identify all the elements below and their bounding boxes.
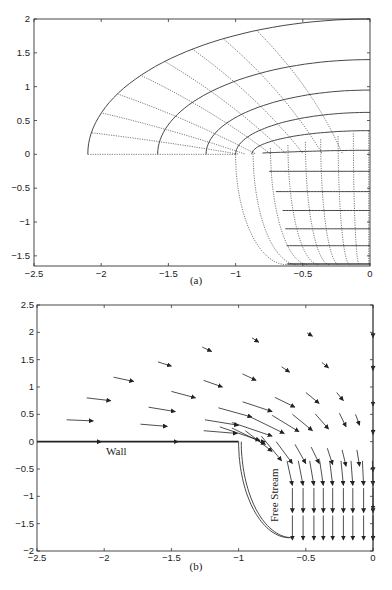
velocity-arrow — [339, 413, 346, 427]
x-tick-label: −2.5 — [25, 268, 44, 279]
y-tick-label: 2.5 — [21, 299, 34, 310]
axis-ticks: −2.5−2−1.5−1−0.50−2−1.5−1−0.500.511.522.… — [15, 299, 375, 563]
panel-caption-b: (b) — [190, 560, 203, 573]
equipotential — [91, 133, 238, 154]
equipotential — [236, 154, 287, 264]
x-tick-label: 0 — [370, 552, 375, 563]
streamline — [88, 19, 370, 154]
x-tick-label: −1 — [230, 268, 241, 279]
wall-label: Wall — [106, 445, 127, 457]
y-tick-label: 1.5 — [17, 47, 30, 58]
velocity-arrow — [205, 420, 239, 426]
panel-a-mesh-plot: −2.5−2−1.5−1−0.50−1.5−1−0.500.511.52 (a) — [11, 13, 372, 287]
equipotential — [305, 142, 329, 265]
y-tick-label: 1 — [25, 81, 30, 92]
velocity-arrow — [141, 424, 168, 426]
velocity-arrow — [204, 380, 223, 387]
velocity-arrow — [337, 393, 344, 401]
equipotential — [253, 151, 297, 264]
x-tick-label: −1.5 — [159, 268, 178, 279]
velocity-arrow — [243, 402, 273, 412]
equipotential — [118, 94, 256, 154]
velocity-arrow — [362, 461, 363, 486]
y-tick-label: 1.5 — [21, 354, 34, 365]
velocity-arrow — [87, 398, 111, 401]
velocity-arrow — [287, 461, 292, 486]
panel-b-vector-field-plot: −2.5−2−1.5−1−0.50−2−1.5−1−0.500.511.522.… — [15, 299, 375, 573]
y-tick-label: 1 — [29, 381, 34, 392]
velocity-arrow — [310, 461, 314, 486]
x-tick-label: −0.5 — [293, 268, 312, 279]
velocity-arrow — [341, 461, 343, 486]
velocity-arrow — [243, 374, 257, 381]
x-tick-label: −2 — [99, 552, 110, 563]
y-tick-label: −1 — [23, 490, 34, 501]
velocity-arrow — [282, 367, 290, 372]
y-tick-label: −0.5 — [15, 463, 34, 474]
y-tick-label: −1 — [19, 216, 30, 227]
velocity-arrow — [306, 393, 319, 404]
y-tick-label: 2 — [25, 13, 30, 24]
y-tick-label: −0.5 — [11, 182, 30, 193]
free-stream-curve — [239, 442, 290, 538]
equipotential — [288, 145, 319, 265]
y-tick-label: −2 — [23, 545, 34, 556]
y-tick-label: −1.5 — [11, 250, 30, 261]
y-tick-label: 0.5 — [17, 115, 30, 126]
y-tick-label: −1.5 — [15, 518, 34, 529]
velocity-arrow — [275, 397, 295, 407]
panel-caption-a: (a) — [190, 274, 203, 287]
velocity-arrow — [342, 450, 346, 466]
equipotential — [223, 39, 322, 153]
velocity-arrow — [298, 461, 303, 486]
velocity-arrow — [245, 431, 272, 452]
y-tick-label: 0.5 — [21, 408, 34, 419]
velocity-arrow — [322, 362, 329, 368]
streamline — [206, 90, 370, 154]
y-tick-label: 0 — [25, 148, 30, 159]
equipotential — [353, 133, 359, 264]
velocity-arrow — [171, 391, 195, 398]
vector-field — [37, 305, 373, 551]
velocity-arrow — [307, 333, 312, 336]
velocity-arrow — [67, 420, 94, 421]
figure: −2.5−2−1.5−1−0.50−1.5−1−0.500.511.52 (a)… — [0, 0, 392, 590]
velocity-arrow — [202, 347, 211, 351]
velocity-arrow — [320, 461, 324, 486]
velocity-arrow — [218, 408, 252, 417]
x-tick-label: −1.5 — [162, 552, 181, 563]
equipotential — [165, 61, 286, 153]
velocity-arrow — [149, 407, 176, 411]
x-tick-label: −1 — [233, 552, 244, 563]
velocity-arrow — [261, 436, 281, 461]
x-tick-label: −0.5 — [296, 552, 315, 563]
velocity-arrow — [276, 442, 292, 464]
x-tick-label: −2 — [96, 268, 107, 279]
velocity-arrow — [356, 414, 360, 425]
free-stream-curve — [241, 442, 292, 538]
streamline — [263, 150, 371, 153]
velocity-arrow — [315, 414, 328, 429]
y-tick-label: 2 — [29, 326, 34, 337]
velocity-arrow — [114, 377, 134, 381]
velocity-arrow — [351, 461, 353, 486]
axis-ticks: −2.5−2−1.5−1−0.50−1.5−1−0.500.511.52 — [11, 13, 372, 279]
velocity-arrow — [252, 338, 259, 342]
streamline — [158, 60, 370, 155]
free-stream-label: Free Stream — [268, 468, 280, 522]
x-tick-label: 0 — [367, 268, 372, 279]
velocity-arrow — [158, 362, 171, 366]
velocity-arrow — [292, 414, 312, 430]
y-tick-label: 0 — [29, 436, 34, 447]
plot-frame — [37, 305, 373, 551]
velocity-arrow — [295, 444, 306, 463]
velocity-arrow — [311, 447, 319, 463]
mesh-curves — [88, 19, 370, 265]
velocity-arrow — [357, 450, 360, 466]
